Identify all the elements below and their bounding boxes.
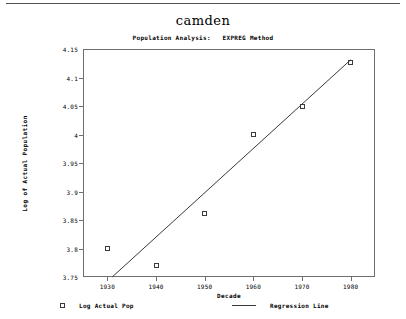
data-point-marker xyxy=(154,263,159,268)
x-tick-label: 1930 xyxy=(100,283,115,290)
x-tick-mark xyxy=(107,277,108,281)
x-tick-mark xyxy=(302,277,303,281)
chart-subtitle: Population Analysis: EXPREG Method xyxy=(0,34,406,41)
legend-item-regression-line: Regression Line xyxy=(232,299,329,311)
y-tick-label: 3.8 xyxy=(67,245,78,252)
legend-item-log-actual-pop: Log Actual Pop xyxy=(60,299,134,311)
x-tick-mark xyxy=(253,277,254,281)
data-point-marker xyxy=(202,211,207,216)
x-tick-label: 1970 xyxy=(294,283,309,290)
y-tick-label: 3.85 xyxy=(63,217,78,224)
y-tick-label: 3.9 xyxy=(67,188,78,195)
y-tick-label: 4.05 xyxy=(63,103,78,110)
y-tick-label: 4.1 xyxy=(67,74,78,81)
y-tick-mark xyxy=(79,192,83,193)
x-tick-mark xyxy=(156,277,157,281)
y-axis-title-label: Log of Actual Population xyxy=(21,115,28,211)
y-tick-mark xyxy=(79,135,83,136)
x-tick-label: 1940 xyxy=(148,283,163,290)
open-square-icon xyxy=(60,303,65,308)
x-tick-label: 1960 xyxy=(246,283,261,290)
y-axis-title: Log of Actual Population xyxy=(18,49,30,277)
y-tick-label: 3.95 xyxy=(63,160,78,167)
data-point-marker xyxy=(105,246,110,251)
y-tick-label: 4 xyxy=(74,131,78,138)
plot-area: 3.753.83.853.93.9544.054.14.15 193019401… xyxy=(83,49,375,277)
data-point-marker xyxy=(348,60,353,65)
line-swatch-icon xyxy=(232,305,256,306)
legend-label: Regression Line xyxy=(270,302,329,309)
chart-legend: Log Actual Pop Regression Line xyxy=(60,299,360,311)
regression-line xyxy=(83,49,375,277)
legend-label: Log Actual Pop xyxy=(79,302,134,309)
page-title: camden xyxy=(0,13,406,28)
data-point-marker xyxy=(300,104,305,109)
y-tick-mark xyxy=(79,106,83,107)
x-tick-mark xyxy=(205,277,206,281)
x-tick-label: 1950 xyxy=(197,283,212,290)
y-tick-mark xyxy=(79,163,83,164)
y-tick-label: 3.75 xyxy=(63,274,78,281)
x-tick-mark xyxy=(351,277,352,281)
x-axis-title: Decade xyxy=(83,292,375,299)
y-tick-label: 4.15 xyxy=(63,46,78,53)
data-point-marker xyxy=(251,132,256,137)
y-tick-mark xyxy=(79,78,83,79)
y-tick-mark xyxy=(79,220,83,221)
header-divider xyxy=(6,3,400,4)
y-tick-mark xyxy=(79,249,83,250)
x-tick-label: 1980 xyxy=(343,283,358,290)
